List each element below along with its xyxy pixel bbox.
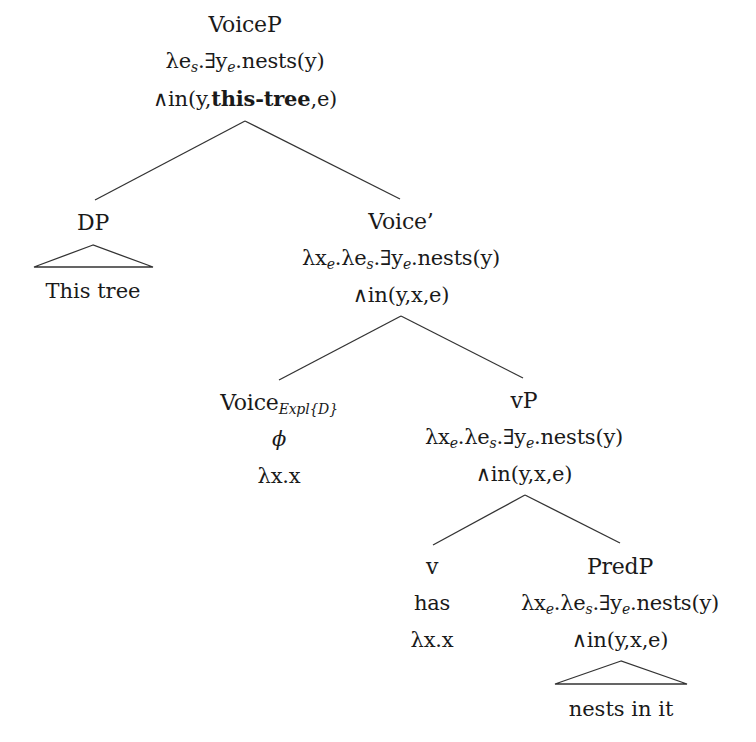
predp-semantics-line1: λxe.λes.∃ye.nests(y) <box>521 585 719 622</box>
node-voicep: VoiceP λes.∃ye.nests(y) ∧in(y,this-tree,… <box>153 6 337 117</box>
voice-expl-phon: ϕ <box>220 421 338 458</box>
predp-label: PredP <box>521 548 719 585</box>
voice-expl-label: VoiceExpl{D} <box>220 384 338 421</box>
voice-bar-semantics-line1: λxe.λes.∃ye.nests(y) <box>302 240 500 277</box>
predp-triangle <box>555 661 687 684</box>
edge-vp-v <box>433 495 525 545</box>
edge-voicebar-vp <box>401 316 523 378</box>
v-semantics: λx.x <box>411 622 454 659</box>
node-vp: vP λxe.λes.∃ye.nests(y) ∧in(y,x,e) <box>425 382 623 493</box>
node-voice-bar: Voice’ λxe.λes.∃ye.nests(y) ∧in(y,x,e) <box>302 203 500 314</box>
syntax-tree-diagram: VoiceP λes.∃ye.nests(y) ∧in(y,this-tree,… <box>0 0 756 742</box>
dp-triangle <box>34 245 153 267</box>
v-phon: has <box>411 585 454 622</box>
node-predp: PredP λxe.λes.∃ye.nests(y) ∧in(y,x,e) <box>521 548 719 659</box>
predp-leaf-text: nests in it <box>569 694 674 724</box>
edge-voicep-dp <box>95 121 245 200</box>
voice-expl-semantics: λx.x <box>220 458 338 495</box>
voicep-semantics-line1: λes.∃ye.nests(y) <box>153 43 337 80</box>
voicep-label: VoiceP <box>153 6 337 43</box>
vp-semantics-line1: λxe.λes.∃ye.nests(y) <box>425 419 623 456</box>
edge-voicebar-voiceexpl <box>279 316 401 380</box>
edge-vp-predp <box>525 495 620 543</box>
vp-semantics-line2: ∧in(y,x,e) <box>425 456 623 493</box>
dp-label: DP <box>77 204 109 241</box>
voice-bar-label: Voice’ <box>302 203 500 240</box>
dp-leaf-text: This tree <box>45 276 140 306</box>
node-v: v has λx.x <box>411 548 454 659</box>
predp-semantics-line2: ∧in(y,x,e) <box>521 622 719 659</box>
node-voice-expl: VoiceExpl{D} ϕ λx.x <box>220 384 338 495</box>
edge-voicep-voicebar <box>245 121 400 199</box>
voice-bar-semantics-line2: ∧in(y,x,e) <box>302 277 500 314</box>
voicep-semantics-line2: ∧in(y,this-tree,e) <box>153 80 337 117</box>
node-dp: DP <box>77 204 109 241</box>
vp-label: vP <box>425 382 623 419</box>
v-label: v <box>411 548 454 585</box>
